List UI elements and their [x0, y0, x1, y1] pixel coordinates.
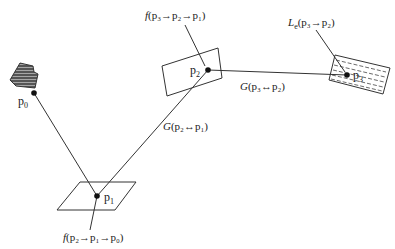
label-brdf-p3-p2-p1: f(p₃→p₂→p₁) [145, 10, 205, 21]
vertex-dot-p0 [31, 90, 37, 96]
vertex-dot-p3 [344, 72, 350, 78]
label-emitted-radiance: Le(p₃→p₂) [288, 17, 335, 28]
vertex-dot-p1 [94, 193, 100, 199]
vertex-label-p3: p3 [353, 69, 363, 81]
vertex-label-p1: p1 [104, 191, 114, 203]
camera-icon [10, 63, 38, 88]
label-geometry-p3-p2: G(p₃↔p₂) [240, 81, 285, 92]
vertex-dot-p2 [205, 67, 211, 73]
vertex-label-p0: p0 [18, 95, 28, 107]
vertex-label-p2: p2 [190, 64, 200, 76]
label-geometry-p2-p1: G(p₂↔p₁) [163, 121, 208, 132]
label-brdf-p2-p1-p0: f(p₂→p₁→p₀) [63, 232, 123, 243]
